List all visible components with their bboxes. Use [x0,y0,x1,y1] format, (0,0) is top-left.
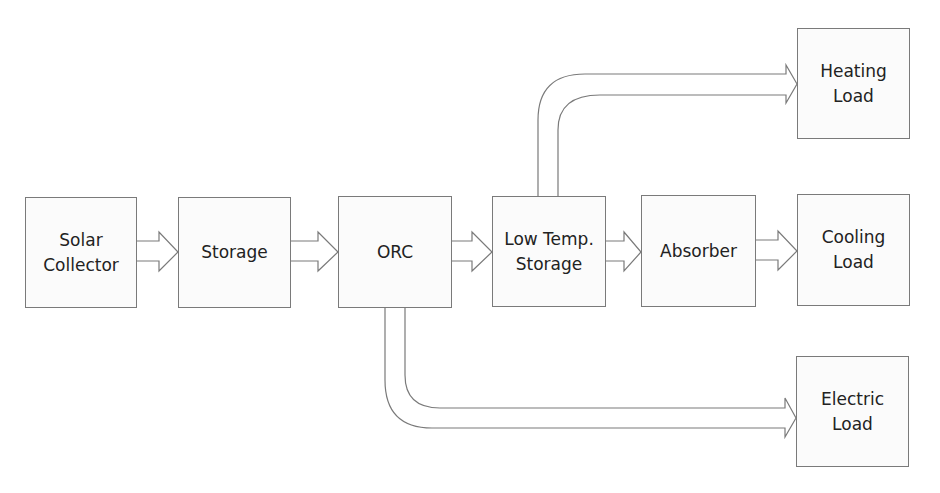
solar-collector-block: Solar Collector [25,197,137,308]
absorber-label: Absorber [660,239,737,264]
arrow-orc-to-electric [385,308,796,437]
arrow-solar-to-storage [137,232,178,271]
electric-load-label: Electric Load [821,387,884,437]
storage-label: Storage [201,240,268,265]
orc-block: ORC [338,196,452,308]
heating-load-label: Heating Load [820,59,887,109]
arrow-storage-to-orc [291,232,338,271]
arrow-absorber-to-cooling [756,231,797,270]
arrow-lts-to-absorber [606,232,641,271]
orc-label: ORC [377,240,413,265]
absorber-block: Absorber [641,195,756,307]
heating-load-block: Heating Load [797,28,910,139]
electric-load-block: Electric Load [796,356,909,467]
solar-collector-label: Solar Collector [43,228,119,278]
arrow-lts-to-heating [538,65,797,196]
arrow-orc-to-lts [452,232,492,271]
cooling-load-label: Cooling Load [822,225,886,275]
low-temp-storage-label: Low Temp. Storage [504,227,594,277]
storage-block: Storage [178,197,291,308]
low-temp-storage-block: Low Temp. Storage [492,196,606,307]
energy-flow-diagram: Solar Collector Storage ORC Low Temp. St… [0,0,940,493]
cooling-load-block: Cooling Load [797,194,910,306]
